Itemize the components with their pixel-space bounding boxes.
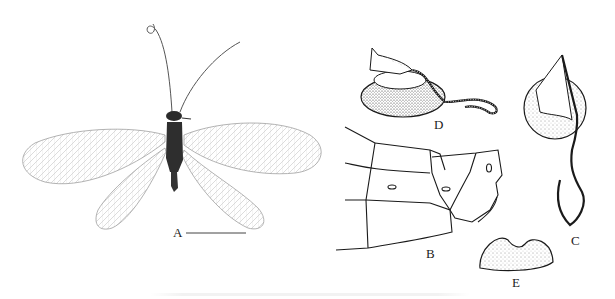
panel-b-drawing — [336, 127, 502, 250]
panel-c-drawing — [524, 55, 586, 225]
panel-b-label: B — [426, 247, 435, 260]
panel-c-label: C — [571, 234, 580, 247]
panel-a-habitus-image — [0, 0, 330, 299]
figure: A — [0, 0, 615, 299]
panel-e-label: E — [512, 276, 520, 289]
panel-a-label: A — [173, 226, 182, 239]
panel-e-drawing — [480, 238, 553, 270]
panel-d-drawing — [361, 48, 497, 117]
cropped-caption-remnant — [150, 293, 470, 296]
panel-d-label: D — [434, 118, 443, 131]
